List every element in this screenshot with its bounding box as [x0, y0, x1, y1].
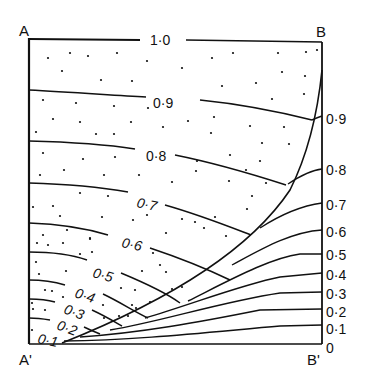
contour-label-0-6-left: 0·6 [120, 234, 143, 254]
contour-label-0-8-left: 0·8 [146, 148, 166, 164]
edge-label-0-3: 0·3 [326, 286, 346, 302]
edge-label-0-6: 0·6 [326, 224, 346, 240]
boundary-arc [62, 70, 322, 343]
contour-label-1-0: 1·0 [150, 32, 170, 48]
edge-label-0-2: 0·2 [326, 304, 346, 320]
edge-label-0-5: 0·5 [326, 247, 346, 263]
right-contours [64, 116, 322, 341]
contour-label-0-1-left: 0·1 [36, 330, 59, 350]
contour-label-0-4-left: 0·4 [73, 285, 97, 307]
left-contours [29, 90, 312, 334]
edge-label-0-1: 0·1 [326, 321, 346, 337]
contour-label-0-7-left: 0·7 [135, 194, 159, 214]
edge-label-0: 0 [326, 340, 334, 356]
edge-label-0-7: 0·7 [326, 197, 346, 213]
corner-label-a-prime: A' [19, 351, 32, 368]
corner-label-b: B [316, 23, 326, 40]
corner-label-b-prime: B' [307, 351, 320, 368]
contour-label-0-5-left: 0·5 [91, 264, 115, 285]
contour-label-0-9-left: 0·9 [153, 95, 173, 111]
contour-diagram: A B A' B' 1·0 0·9 0·8 0·7 0·6 0·5 0·4 0·… [0, 0, 376, 384]
edge-label-0-9: 0·9 [326, 111, 346, 127]
corner-label-a: A [19, 22, 29, 39]
edge-label-0-8: 0·8 [326, 162, 346, 178]
edge-label-0-4: 0·4 [326, 267, 346, 283]
